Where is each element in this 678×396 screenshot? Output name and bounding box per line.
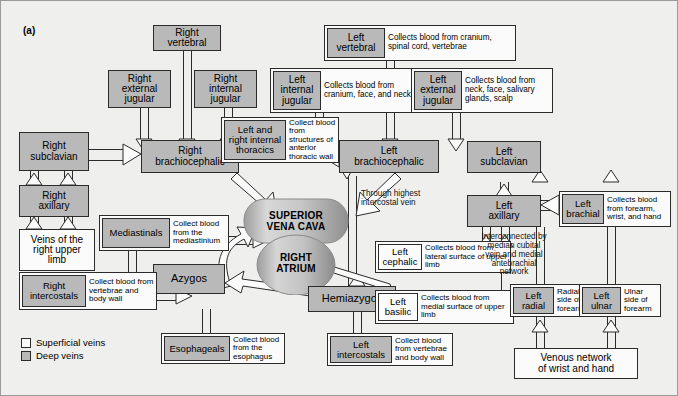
annotation-interconnected: Interconnected by median cubital vein an… [467,233,561,277]
combo-left-intercostals-desc: Collect blood from vertebrae and body wa… [392,336,450,363]
node-right-axillary[interactable]: Right axillary [19,185,89,217]
right-atrium-label: RIGHT ATRIUM [246,253,346,275]
combo-left-external-jugular-desc: Collects blood from neck, face, salivary… [462,71,550,110]
node-veins-right-upper-limb-text: Veins of the right upper limb [29,235,85,266]
node-left-brachiocephalic[interactable]: Left brachiocephalic [339,140,439,173]
node-left-brachiocephalic-text: Left brachiocephalic [352,146,426,166]
legend-label-superficial: Superficial veins [36,337,105,348]
combo-left-brachial-desc: Collects blood from forearm, wrist, and … [604,194,668,224]
legend-swatch-deep-icon [21,351,31,361]
combo-mediastinals-desc: Collect blood from the mediastinium [170,218,226,248]
node-venous-network-wrist-hand[interactable]: Venous network of wrist and hand [514,348,638,379]
combo-left-vertebral-desc: Collects blood from cranium, spinal cord… [385,28,513,58]
combo-left-external-jugular-name: Left external jugular [414,71,462,110]
legend: Superficial veins Deep veins [21,337,105,363]
node-right-brachiocephalic-text: Right brachiocephalic [153,146,227,166]
svc-label: SUPERIOR VENA CAVA [246,211,346,233]
node-left-subclavian[interactable]: Left subclavian [467,141,541,173]
combo-internal-thoracics-name: Left and right internal thoracics [224,120,286,160]
combo-right-intercostals[interactable]: Right intercostals Collect blood from ve… [19,272,157,310]
node-right-external-jugular-text: Right external jugular [120,74,160,105]
combo-left-internal-jugular[interactable]: Left internal jugular Collects blood fro… [270,68,421,113]
combo-esophageals-name: Esophageals [164,336,230,361]
combo-left-radial-name: Left radial [513,287,554,314]
node-azygos[interactable]: Azygos [153,264,225,294]
combo-left-ulnar[interactable]: Left ulnar Ulnar side of forearm [579,284,661,317]
svc-label-line2: VENA CAVA [246,222,346,233]
combo-left-basilic-desc: Collects blood from medial surface of up… [418,293,511,321]
combo-esophageals[interactable]: Esophageals Collect blood from the esoph… [161,333,285,364]
combo-internal-thoracics-desc: Collect blood from structures of anterio… [286,120,336,160]
combo-esophageals-desc: Collect blood from the esophagus [230,336,282,361]
combo-left-vertebral-name: Left vertebral [327,28,385,58]
legend-swatch-superficial-icon [21,338,31,348]
combo-left-intercostals[interactable]: Left intercostals Collect blood from ver… [327,333,453,366]
node-right-external-jugular[interactable]: Right external jugular [108,70,171,108]
legend-label-deep: Deep veins [36,350,84,361]
combo-left-brachial[interactable]: Left brachial Collects blood from forear… [559,191,671,227]
node-right-axillary-text: Right axillary [36,191,71,211]
node-right-internal-jugular-text: Right internal jugular [207,74,244,105]
annotation-interconnected-line5: network [467,268,561,277]
combo-left-brachial-name: Left brachial [562,194,604,224]
node-left-subclavian-text: Left subclavian [478,147,529,167]
combo-left-cephalic-name: Left cephalic [378,244,422,270]
node-right-vertebral[interactable]: Right vertebral [153,25,221,51]
node-veins-right-upper-limb[interactable]: Veins of the right upper limb [19,229,95,271]
legend-item-superficial: Superficial veins [21,337,105,348]
atrium-label-line2: ATRIUM [246,264,346,275]
combo-left-vertebral[interactable]: Left vertebral Collects blood from crani… [324,25,516,61]
combo-left-intercostals-name: Left intercostals [330,336,392,363]
node-left-axillary[interactable]: Left axillary [467,195,541,227]
node-right-vertebral-text: Right vertebral [166,28,209,48]
venous-drainage-flowchart: (a) [0,0,678,396]
annotation-highest-intercostal: Through highest intercostal vein [361,190,461,208]
panel-label: (a) [23,25,35,36]
node-venous-network-text: Venous network of wrist and hand [536,353,616,373]
combo-mediastinals[interactable]: Mediastinals Collect blood from the medi… [99,215,229,251]
combo-left-internal-jugular-name: Left internal jugular [273,71,321,110]
combo-right-intercostals-desc: Collect blood from vertebrae and body wa… [86,275,154,307]
node-right-subclavian-text: Right subclavian [28,141,79,161]
combo-left-external-jugular[interactable]: Left external jugular Collects blood fro… [411,68,553,113]
legend-item-deep: Deep veins [21,350,105,361]
combo-left-basilic[interactable]: Left basilic Collects blood from medial … [375,290,514,324]
combo-mediastinals-name: Mediastinals [102,218,170,248]
combo-left-ulnar-name: Left ulnar [582,287,621,314]
combo-left-ulnar-desc: Ulnar side of forearm [621,287,658,314]
annotation-highest-intercostal-line2: intercostal vein [361,199,461,208]
node-right-internal-jugular[interactable]: Right internal jugular [194,70,257,108]
combo-left-internal-jugular-desc: Collects blood from cranium, face, and n… [321,71,418,110]
combo-left-basilic-name: Left basilic [378,293,418,321]
node-azygos-text: Azygos [169,273,209,284]
combo-internal-thoracics[interactable]: Left and right internal thoracics Collec… [221,117,339,163]
node-left-axillary-text: Left axillary [486,201,521,221]
node-right-subclavian[interactable]: Right subclavian [19,132,89,171]
combo-right-intercostals-name: Right intercostals [22,275,86,307]
